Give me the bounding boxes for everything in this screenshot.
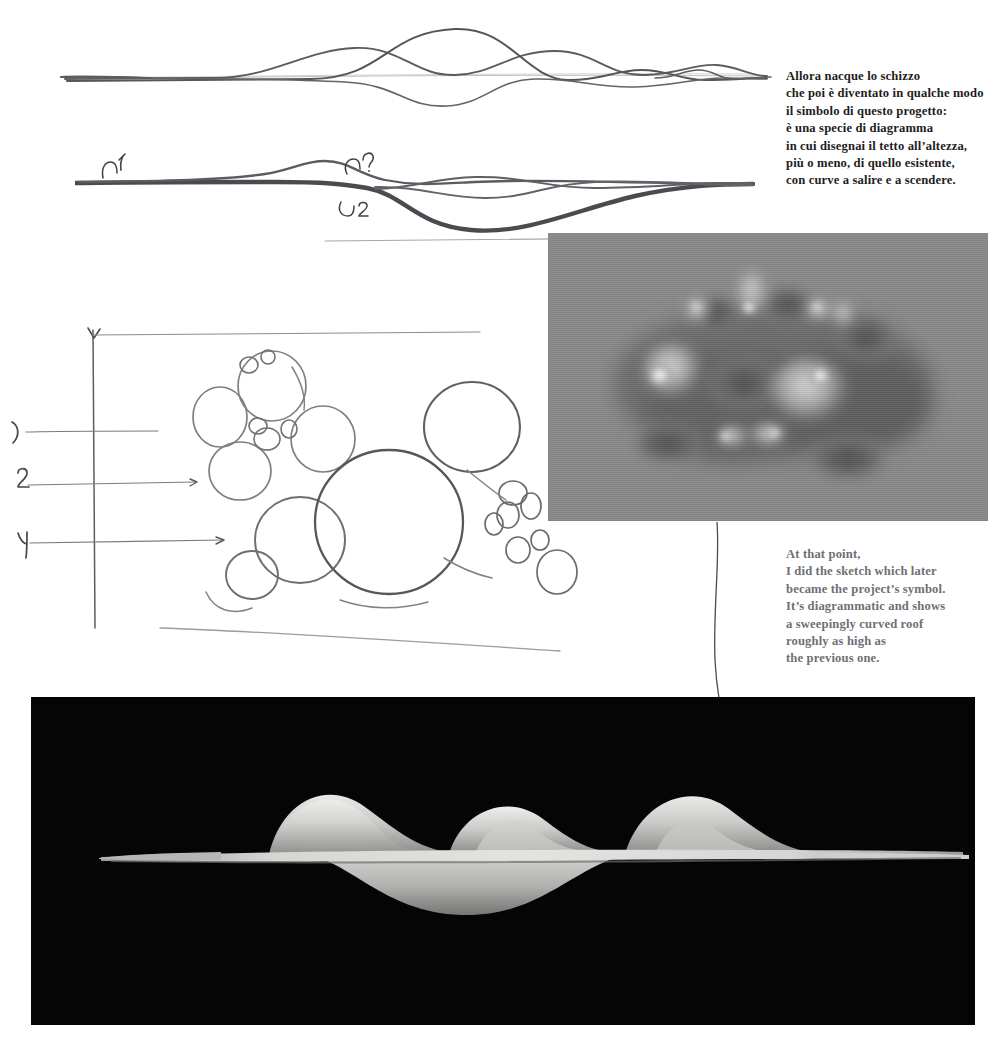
caption-italian-line: con curve a salire e a scendere. (786, 172, 984, 189)
render-content (31, 697, 975, 1025)
caption-english-line: It’s diagrammatic and shows (786, 598, 946, 615)
caption-italian-line: il simbolo di questo progetto: (786, 103, 984, 120)
caption-italian-line: che poi è diventato in qualche modo (786, 85, 984, 102)
caption-italian: Allora nacque lo schizzo che poi è diven… (786, 68, 984, 190)
physical-model-photograph (548, 233, 988, 521)
roof-profile-sketch-light (55, 18, 775, 123)
caption-italian-line: in cui disegnai il tetto all’altezza, (786, 138, 984, 155)
caption-english-line: roughly as high as (786, 633, 946, 650)
connector-line (700, 520, 740, 700)
caption-english-line: I did the sketch which later (786, 563, 946, 580)
bubble-plan-sketch (0, 310, 620, 670)
sketchbook-page: Allora nacque lo schizzo che poi è diven… (0, 0, 993, 1049)
caption-english-line: became the project’s symbol. (786, 581, 946, 598)
caption-italian-line: è una specie di diagramma (786, 120, 984, 137)
caption-english-line: a sweepingly curved roof (786, 616, 946, 633)
model-photo-content (548, 233, 988, 521)
caption-italian-line: Allora nacque lo schizzo (786, 68, 984, 85)
caption-english-line: the previous one. (786, 650, 946, 667)
roof-3d-render (31, 697, 975, 1025)
caption-english: At that point, I did the sketch which la… (786, 546, 946, 668)
caption-english-line: At that point, (786, 546, 946, 563)
caption-italian-line: più o meno, di quello esistente, (786, 155, 984, 172)
